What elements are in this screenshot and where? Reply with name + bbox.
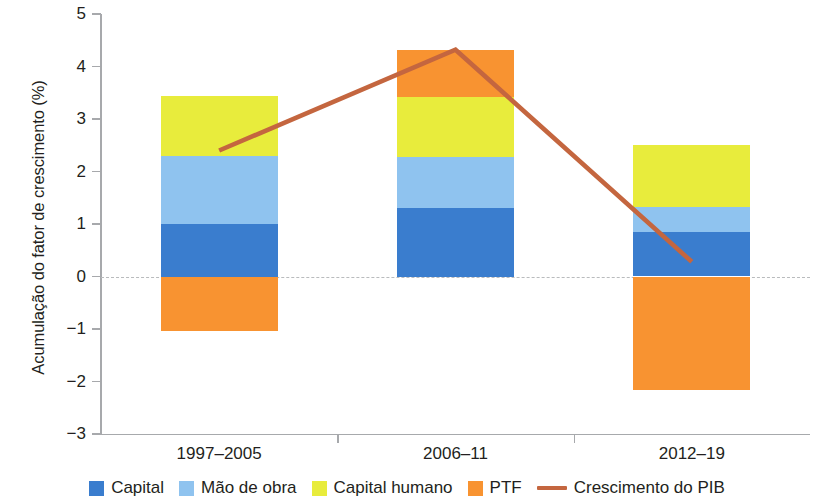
y-tick-mark: [92, 118, 101, 119]
y-tick-mark: [92, 66, 101, 67]
y-tick-label: −3: [26, 425, 86, 442]
x-tick-label: 2006–11: [356, 444, 556, 464]
legend-swatch-icon: [179, 481, 194, 496]
y-tick-label: 2: [26, 163, 86, 180]
legend-item[interactable]: PTF: [468, 478, 522, 498]
bar-segment: [161, 277, 278, 331]
legend-item[interactable]: Capital humano: [312, 478, 453, 498]
legend-item[interactable]: Crescimento do PIB: [537, 478, 725, 498]
y-tick-mark: [92, 13, 101, 14]
y-tick-mark: [92, 328, 101, 329]
bar-segment: [397, 97, 514, 157]
y-tick-label: 1: [26, 215, 86, 232]
x-tick-label: 2012–19: [592, 444, 792, 464]
bar-segment: [633, 145, 750, 206]
legend-item-label: Crescimento do PIB: [574, 478, 725, 498]
y-tick-mark: [92, 171, 101, 172]
legend-item-label: Capital humano: [334, 478, 453, 498]
bar-segment: [161, 96, 278, 155]
bar-segment: [633, 207, 750, 233]
y-tick-label: −2: [26, 373, 86, 390]
x-tick-label: 1997–2005: [119, 444, 319, 464]
bar-segment: [397, 208, 514, 276]
legend-item[interactable]: Capital: [89, 478, 164, 498]
stacked-bar-chart-figure: Acumulação do fator de crescimento (%) 5…: [0, 0, 814, 502]
x-tick-mark: [337, 434, 338, 443]
y-tick-label: 3: [26, 110, 86, 127]
legend-swatch-icon: [468, 481, 483, 496]
y-tick-mark: [92, 433, 101, 434]
y-tick-label: 4: [26, 58, 86, 75]
legend-line-icon: [537, 486, 567, 491]
bar-segment: [633, 232, 750, 276]
y-tick-label: −1: [26, 320, 86, 337]
y-tick-label: 0: [26, 268, 86, 285]
y-tick-mark: [92, 276, 101, 277]
legend-item-label: Capital: [111, 478, 164, 498]
y-tick-label: 5: [26, 5, 86, 22]
legend-swatch-icon: [89, 481, 104, 496]
chart-legend: CapitalMão de obraCapital humanoPTFCresc…: [0, 478, 814, 498]
legend-swatch-icon: [312, 481, 327, 496]
x-tick-mark: [574, 434, 575, 443]
y-tick-mark: [92, 223, 101, 224]
bar-segment: [161, 156, 278, 224]
legend-item[interactable]: Mão de obra: [179, 478, 296, 498]
x-axis-line: [100, 434, 810, 436]
bar-segment: [397, 50, 514, 98]
legend-item-label: Mão de obra: [201, 478, 296, 498]
bar-segment: [397, 157, 514, 208]
bar-segment: [161, 224, 278, 277]
y-tick-mark: [92, 381, 101, 382]
bar-segment: [633, 277, 750, 391]
legend-item-label: PTF: [490, 478, 522, 498]
